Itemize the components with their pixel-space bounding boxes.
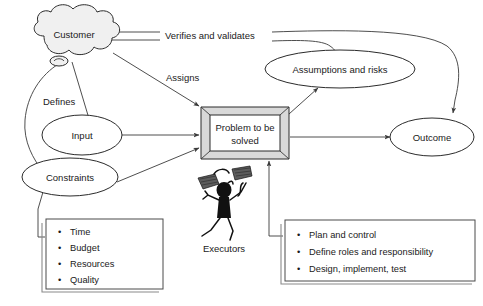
assumptions-label: Assumptions and risks: [292, 64, 387, 75]
outcome-label: Outcome: [413, 132, 452, 143]
constraints-list-box[interactable]: • Time • Budget • Resources • Quality: [42, 219, 163, 292]
execution-item-0: Plan and control: [309, 230, 376, 240]
diagram-svg: Customer Input Constraints Problem to be…: [0, 0, 483, 306]
executor-arm-right: [230, 183, 246, 200]
executor-arm-left: [203, 191, 219, 200]
executor-leg-left: [202, 218, 220, 236]
diagram-canvas: Customer Input Constraints Problem to be…: [0, 0, 483, 306]
execution-item-1: Define roles and responsibility: [309, 247, 433, 257]
execution-bullet-2: •: [297, 264, 300, 274]
execution-list-box[interactable]: • Plan and control • Define roles and re…: [281, 220, 475, 284]
executors-label: Executors: [203, 243, 245, 254]
execution-bullet-0: •: [297, 230, 300, 240]
execution-bullet-1: •: [297, 247, 300, 257]
node-input[interactable]: Input: [42, 115, 122, 155]
node-assumptions[interactable]: Assumptions and risks: [265, 50, 415, 88]
node-problem[interactable]: Problem to be solved: [201, 107, 289, 159]
edge-label-assigns: Assigns: [166, 72, 200, 83]
constraints-label: Constraints: [46, 172, 94, 183]
constraints-item-1: Budget: [70, 243, 100, 253]
constraints-item-3: Quality: [70, 275, 99, 285]
executor-leg-right: [228, 218, 233, 240]
edge-label-verifies: Verifies and validates: [165, 30, 255, 41]
constraints-item-0: Time: [70, 227, 90, 237]
constraints-bullet-3: •: [58, 275, 61, 285]
edge-customer-to-constraints: [25, 63, 60, 170]
constraints-item-2: Resources: [70, 259, 115, 269]
problem-label-line2: solved: [231, 135, 258, 146]
node-executors[interactable]: Executors: [198, 166, 252, 254]
node-customer[interactable]: Customer: [34, 5, 119, 66]
customer-label: Customer: [53, 29, 94, 40]
constraints-bullet-0: •: [58, 227, 61, 237]
constraints-bullet-1: •: [58, 243, 61, 253]
edge-customer-to-input: [72, 62, 90, 122]
edge-constraints-to-problem: [117, 148, 199, 182]
customer-cloud-tail: [50, 56, 68, 66]
problem-label-line1: Problem to be: [215, 122, 274, 133]
constraints-list-rect: [46, 219, 163, 289]
input-label: Input: [71, 130, 92, 141]
execution-item-2: Design, implement, test: [309, 264, 407, 274]
constraints-bullet-2: •: [58, 259, 61, 269]
executor-head: [217, 182, 232, 198]
node-constraints[interactable]: Constraints: [22, 158, 118, 196]
node-outcome[interactable]: Outcome: [390, 118, 474, 156]
edge-label-defines: Defines: [43, 96, 75, 107]
edge-problem-to-assumptions: [289, 88, 318, 114]
